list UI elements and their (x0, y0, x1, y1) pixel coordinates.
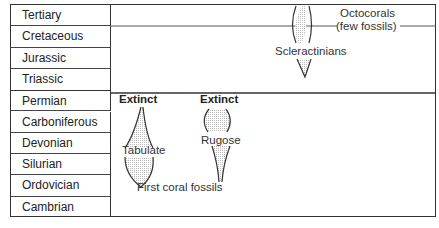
rugose-label: Rugose (201, 134, 241, 146)
scleractinian-origin (297, 59, 311, 77)
tabulate-label: Tabulate (122, 144, 165, 156)
tabulate-extinct-label: Extinct (119, 93, 158, 105)
octocorals-note: (few fossils) (336, 20, 397, 32)
rugose-extinct-label: Extinct (200, 93, 239, 105)
rugose-lower-fill (212, 146, 230, 182)
octocorals-label: Octocorals (340, 7, 395, 19)
scleractinians-label: Scleractinians (275, 45, 347, 57)
scleractinian-shape-fill (295, 6, 306, 43)
first-coral-fossils-label: First coral fossils (137, 181, 223, 193)
rugose-upper-fill (204, 109, 230, 132)
coral-evolution-diagram: Scleractinians Octocorals (few fossils) … (0, 0, 439, 228)
